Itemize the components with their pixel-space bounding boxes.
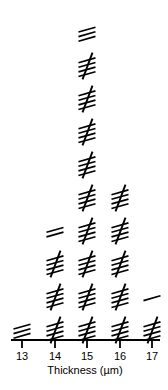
x-axis-tick-label: 13 [16,350,28,362]
x-axis-tick-label: 16 [114,350,126,362]
x-axis-title: Thickness (µm) [47,364,122,376]
chart-background [0,0,168,390]
x-axis-tick-label: 15 [81,350,93,362]
x-axis-tick-label: 14 [49,350,61,362]
x-axis-tick-label: 17 [146,350,158,362]
tally-histogram-chart: 1314151617 Thickness (µm) [0,0,168,390]
